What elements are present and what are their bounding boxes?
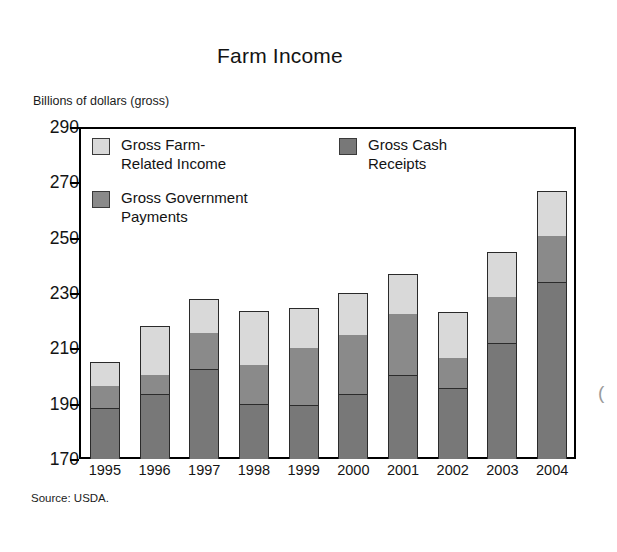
bar-segment-2004-gross-farm-related-income	[537, 191, 567, 237]
x-axis-tick-label: 1996	[128, 462, 182, 478]
bar-1998	[239, 311, 269, 459]
bar-segment-2003-gross-farm-related-income	[487, 252, 517, 298]
bar-1995	[90, 362, 120, 459]
bar-segment-1999-gross-cash-receipts	[289, 405, 319, 459]
bar-segment-2003-gross-government-payments	[487, 297, 517, 343]
bar-segment-1996-gross-farm-related-income	[140, 326, 170, 374]
bar-segment-1997-gross-farm-related-income	[189, 299, 219, 334]
bar-segment-2000-gross-farm-related-income	[338, 293, 368, 335]
bar-segment-2001-gross-cash-receipts	[388, 375, 418, 459]
legend-item-gross-government-payments: Gross Government Payments	[92, 189, 248, 226]
chart-legend: Gross Farm- Related Income Gross Governm…	[92, 136, 522, 236]
legend-item-gross-farm-related-income: Gross Farm- Related Income	[92, 136, 226, 173]
y-axis-tick-mark	[70, 459, 79, 461]
y-axis-tick-mark	[70, 182, 79, 184]
bar-1996	[140, 326, 170, 459]
y-axis-tick-mark	[70, 293, 79, 295]
legend-swatch-gross-farm-related-income	[92, 138, 110, 155]
legend-label-gross-farm-related-income: Gross Farm- Related Income	[121, 136, 226, 173]
y-axis-label: Billions of dollars (gross)	[33, 94, 169, 108]
y-axis-tick-marks	[70, 127, 79, 459]
bar-segment-1995-gross-farm-related-income	[90, 362, 120, 386]
bar-segment-2002-gross-farm-related-income	[438, 312, 468, 358]
chart-figure: Farm Income Billions of dollars (gross) …	[0, 0, 617, 552]
bar-segment-2001-gross-government-payments	[388, 314, 418, 375]
x-axis-tick-label: 1998	[227, 462, 281, 478]
legend-item-gross-cash-receipts: Gross Cash Receipts	[339, 136, 447, 173]
y-axis-tick-mark	[70, 348, 79, 350]
bar-1997	[189, 299, 219, 459]
bar-segment-1997-gross-government-payments	[189, 333, 219, 369]
bar-segment-1999-gross-farm-related-income	[289, 308, 319, 348]
bar-segment-1996-gross-cash-receipts	[140, 394, 170, 459]
bar-segment-2004-gross-government-payments	[537, 236, 567, 282]
chart-title: Farm Income	[0, 44, 560, 68]
bar-2002	[438, 312, 468, 459]
bar-segment-1999-gross-government-payments	[289, 348, 319, 405]
bar-2003	[487, 252, 517, 459]
bar-segment-2002-gross-cash-receipts	[438, 388, 468, 459]
bar-segment-1998-gross-government-payments	[239, 365, 269, 404]
bar-segment-2001-gross-farm-related-income	[388, 274, 418, 314]
x-axis-tick-label: 2004	[525, 462, 579, 478]
legend-label-gross-government-payments: Gross Government Payments	[121, 189, 248, 226]
bar-segment-1998-gross-cash-receipts	[239, 404, 269, 459]
legend-swatch-gross-cash-receipts	[339, 138, 357, 155]
x-axis-tick-label: 2001	[376, 462, 430, 478]
y-axis-tick-mark	[70, 127, 79, 129]
bar-segment-2000-gross-government-payments	[338, 335, 368, 394]
source-note: Source: USDA.	[31, 492, 109, 504]
x-axis-tick-label: 1995	[78, 462, 132, 478]
bar-segment-1996-gross-government-payments	[140, 375, 170, 394]
bar-2000	[338, 293, 368, 459]
y-axis-tick-mark	[70, 404, 79, 406]
bar-segment-1997-gross-cash-receipts	[189, 369, 219, 459]
bar-segment-1998-gross-farm-related-income	[239, 311, 269, 365]
bar-1999	[289, 308, 319, 459]
x-axis-tick-label: 1999	[277, 462, 331, 478]
x-axis-tick-label: 2002	[426, 462, 480, 478]
bar-segment-2002-gross-government-payments	[438, 358, 468, 388]
bar-2004	[537, 191, 567, 459]
page-edge-artifact: (	[598, 382, 604, 404]
x-axis-tick-label: 2003	[475, 462, 529, 478]
x-axis-tick-label: 2000	[326, 462, 380, 478]
bar-segment-1995-gross-government-payments	[90, 386, 120, 408]
bar-segment-2003-gross-cash-receipts	[487, 343, 517, 459]
bar-segment-2004-gross-cash-receipts	[537, 282, 567, 459]
x-axis-tick-labels: 1995199619971998199920002001200220032004	[79, 462, 576, 488]
y-axis-tick-mark	[70, 238, 79, 240]
bar-2001	[388, 274, 418, 459]
bar-segment-1995-gross-cash-receipts	[90, 408, 120, 459]
legend-swatch-gross-government-payments	[92, 191, 110, 208]
legend-label-gross-cash-receipts: Gross Cash Receipts	[368, 136, 447, 173]
x-axis-tick-label: 1997	[177, 462, 231, 478]
bar-segment-2000-gross-cash-receipts	[338, 394, 368, 459]
